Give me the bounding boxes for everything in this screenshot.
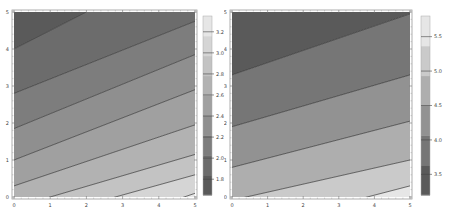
left-contour-panel: 012345012345 1.82.02.22.42.62.83.03.2 [0, 0, 225, 213]
x-tick-label: 0 [230, 202, 233, 208]
colorbar-segment [203, 76, 212, 96]
colorbar-tick-label: 3.5 [434, 171, 442, 177]
colorbar-tick-label: 1.8 [216, 176, 224, 182]
colorbar-segment [421, 16, 430, 46]
colorbar-tick-label: 4.0 [434, 137, 442, 143]
colorbar-tick-label: 2.0 [216, 155, 224, 161]
x-tick-label: 4 [157, 202, 160, 208]
colorbar-tick-label: 2.6 [216, 92, 224, 98]
colorbar-segment [203, 36, 212, 56]
colorbar-segment [421, 46, 430, 76]
colorbar-segment [421, 106, 430, 136]
colorbar-tick-label: 2.8 [216, 71, 224, 77]
colorbar-segment [203, 56, 212, 76]
colorbar-segment [203, 16, 212, 36]
x-tick-label: 5 [408, 202, 411, 208]
y-tick-label: 1 [224, 157, 227, 163]
y-tick-label: 4 [6, 46, 9, 52]
x-tick-label: 3 [337, 202, 340, 208]
y-tick-label: 2 [224, 120, 227, 126]
colorbar-tick-label: 3.0 [216, 50, 224, 56]
colorbar-tick-label: 5.0 [434, 68, 442, 74]
colorbar-segment [203, 135, 212, 155]
y-tick-label: 0 [6, 194, 9, 200]
colorbar-tick-label: 2.4 [216, 113, 224, 119]
colorbar-tick-label: 2.2 [216, 134, 224, 140]
right-colorbar: 3.54.04.55.05.5 [421, 16, 442, 196]
left-plot-area [0, 0, 225, 213]
left-colorbar: 1.82.02.22.42.62.83.03.2 [203, 16, 224, 196]
colorbar-segment [203, 115, 212, 135]
x-tick-label: 3 [121, 202, 124, 208]
right-contour-panel: 012345012345 3.54.04.55.05.5 [224, 0, 449, 213]
colorbar-segment [421, 165, 430, 195]
colorbar-tick-label: 4.5 [434, 102, 442, 108]
colorbar-segment [203, 96, 212, 116]
left-contour-svg: 012345012345 1.82.02.22.42.62.83.03.2 [0, 0, 225, 213]
y-tick-label: 2 [6, 120, 9, 126]
x-tick-label: 2 [85, 202, 88, 208]
colorbar-segment [203, 175, 212, 195]
y-tick-label: 5 [224, 9, 227, 15]
colorbar-segment [421, 76, 430, 106]
x-tick-label: 2 [302, 202, 305, 208]
x-tick-label: 5 [193, 202, 196, 208]
x-tick-label: 1 [49, 202, 52, 208]
colorbar-tick-label: 3.2 [216, 29, 224, 35]
right-contour-svg: 012345012345 3.54.04.55.05.5 [224, 0, 449, 213]
colorbar-tick-label: 5.5 [434, 33, 442, 39]
y-tick-label: 5 [6, 9, 9, 15]
y-tick-label: 1 [6, 157, 9, 163]
x-tick-label: 4 [373, 202, 376, 208]
x-tick-label: 1 [266, 202, 269, 208]
x-tick-label: 0 [12, 202, 15, 208]
y-tick-label: 3 [6, 83, 9, 89]
y-tick-label: 4 [224, 46, 227, 52]
y-tick-label: 0 [224, 194, 227, 200]
y-tick-label: 3 [224, 83, 227, 89]
